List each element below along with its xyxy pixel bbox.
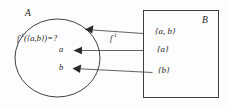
set-mapping-diagram: A B f-1({a,b})=? a b f-1 {a, b} {a} {b} [0,0,229,109]
set-b-label: B [202,16,208,26]
set-a-ellipse [15,19,100,97]
map-label-exponent: -1 [112,32,116,38]
set-b-element-ab: {a, b} [155,27,176,36]
arrow-set-b-to-b [73,65,153,73]
element-b: b [59,63,63,72]
element-a: a [59,45,63,54]
diagram-canvas [0,0,229,109]
arrow-set-a-to-a [74,47,144,54]
preimage-expression: f-1({a,b})=? [17,33,57,42]
set-b-element-b: {b} [158,66,170,75]
set-b-element-a: {a} [157,45,169,54]
set-a-label: A [25,9,31,19]
preimage-expression-arg: ({a,b})=? [24,33,57,43]
map-label-f-inverse: f-1 [110,33,117,43]
